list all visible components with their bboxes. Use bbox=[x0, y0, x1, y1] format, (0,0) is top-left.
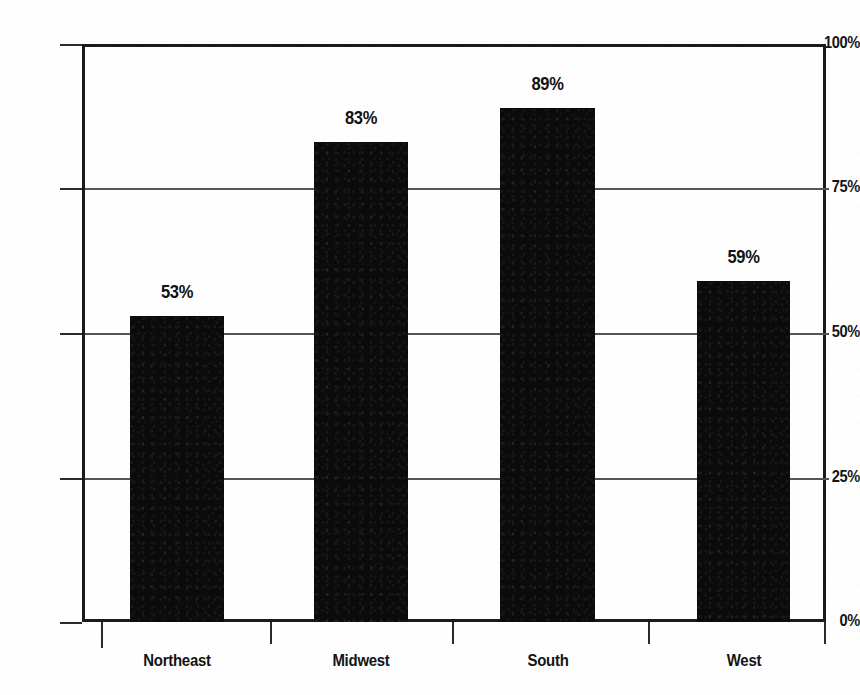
bar-value-label-west: 59% bbox=[703, 246, 784, 268]
x-axis-label-midwest: Midwest bbox=[304, 651, 418, 671]
scanned-page: 100% 75% 50% 25% 0% bbox=[0, 0, 860, 695]
bar-value-label-south: 89% bbox=[506, 73, 589, 95]
y-axis-tick-mark-100 bbox=[60, 44, 82, 46]
bar-value-label-northeast: 53% bbox=[136, 281, 218, 303]
x-axis-label-west: West bbox=[687, 651, 801, 671]
bar-value-label-midwest: 83% bbox=[320, 107, 402, 129]
bar-south[interactable] bbox=[500, 108, 595, 622]
x-axis-tick-mark-2 bbox=[452, 622, 454, 644]
x-axis-label-northeast: Northeast bbox=[120, 651, 234, 671]
plot-area bbox=[82, 44, 826, 622]
bar-northeast[interactable] bbox=[130, 316, 224, 622]
x-axis-origin-tick bbox=[101, 622, 103, 648]
x-axis-tick-mark-4 bbox=[824, 622, 826, 644]
bar-chart-figure: 100% 75% 50% 25% 0% bbox=[0, 0, 860, 695]
y-axis-tick-mark-25 bbox=[60, 478, 82, 480]
y-axis-tick-mark-75 bbox=[60, 188, 82, 190]
y-axis-tick-mark-0 bbox=[60, 622, 82, 624]
x-axis-tick-mark-1 bbox=[270, 622, 272, 644]
bar-midwest[interactable] bbox=[314, 142, 408, 622]
x-axis-tick-mark-3 bbox=[648, 622, 650, 644]
x-axis-label-south: South bbox=[491, 651, 605, 671]
y-axis-tick-mark-50 bbox=[60, 333, 82, 335]
bar-west[interactable] bbox=[697, 281, 790, 622]
gridline-75 bbox=[85, 188, 829, 190]
